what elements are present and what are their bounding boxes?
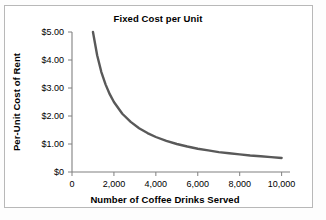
x-tick-label: 6,000 bbox=[187, 179, 210, 189]
y-tick-label: $0 bbox=[54, 167, 64, 177]
x-tick-label: 10,000 bbox=[268, 179, 296, 189]
chart-title: Fixed Cost per Unit bbox=[114, 13, 204, 24]
y-axis-ticks: $0$1.00$2.00$3.00$4.00$5.00 bbox=[41, 27, 72, 177]
x-tick-label: 2,000 bbox=[103, 179, 126, 189]
y-tick-label: $4.00 bbox=[41, 55, 64, 65]
x-axis-title: Number of Coffee Drinks Served bbox=[90, 194, 239, 205]
y-tick-label: $2.00 bbox=[41, 111, 64, 121]
y-tick-label: $1.00 bbox=[41, 139, 64, 149]
y-tick-label: $5.00 bbox=[41, 27, 64, 37]
chart-figure: Fixed Cost per Unit $0$1.00$2.00$3.00$4.… bbox=[0, 0, 326, 220]
cost-curve-line bbox=[93, 32, 282, 158]
x-tick-label: 8,000 bbox=[228, 179, 251, 189]
y-axis-title: Per-Unit Cost of Rent bbox=[11, 52, 22, 151]
x-tick-label: 0 bbox=[69, 179, 74, 189]
x-tick-label: 4,000 bbox=[145, 179, 168, 189]
chart-plot-area: Fixed Cost per Unit $0$1.00$2.00$3.00$4.… bbox=[0, 0, 326, 220]
x-axis-ticks: 02,0004,0006,0008,00010,000 bbox=[69, 172, 295, 189]
y-tick-label: $3.00 bbox=[41, 83, 64, 93]
